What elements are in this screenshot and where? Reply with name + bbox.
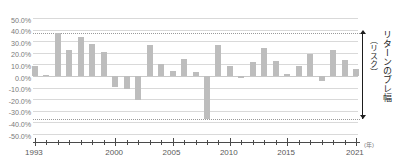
ytick-label-10: 10.0% — [0, 62, 31, 71]
x-axis-tick — [81, 140, 82, 145]
bar — [66, 50, 72, 76]
x-axis-tick — [104, 140, 105, 145]
x-axis-tick — [218, 140, 219, 145]
ytick-label-50: 50.0% — [0, 16, 31, 25]
bar — [181, 59, 187, 76]
x-axis-tick — [184, 140, 185, 145]
bar — [319, 76, 325, 81]
ytick-label-neg50: -50.0% — [0, 132, 31, 141]
bar — [147, 45, 153, 76]
x-axis-tick — [46, 140, 47, 145]
return-volatility-bar-chart: 50.0% 40.0% 30.0% 20.0% 10.0% 0.0% -10.0… — [0, 0, 412, 165]
bar — [124, 76, 130, 89]
x-axis-unit-label: (年) — [364, 140, 374, 149]
xtick-label-2021: 2021 — [346, 148, 364, 157]
range-bracket-line — [362, 33, 363, 119]
x-axis-tick — [161, 140, 162, 145]
bar — [32, 66, 38, 76]
upper-reference-line — [33, 33, 360, 34]
xtick-label-2015: 2015 — [277, 148, 295, 157]
x-axis-tick — [299, 140, 300, 145]
lower-reference-line — [33, 119, 360, 120]
bar — [342, 60, 348, 76]
x-axis-tick — [241, 140, 242, 145]
bar — [227, 66, 233, 76]
gridline-neg10 — [33, 88, 358, 89]
x-axis-tick — [310, 140, 311, 145]
bar — [193, 72, 199, 76]
bar — [284, 74, 290, 76]
range-bracket-arrow-down — [360, 115, 366, 119]
x-axis-tick — [196, 140, 197, 145]
bar — [330, 50, 336, 76]
bar — [261, 48, 267, 76]
xtick-label-2000: 2000 — [105, 148, 123, 157]
gridline-neg20 — [33, 99, 358, 100]
bar — [273, 61, 279, 76]
ytick-label-0: 0.0% — [0, 74, 31, 83]
x-axis-tick — [35, 138, 36, 146]
range-label-main: リターンのブレ幅 — [382, 30, 391, 102]
bar — [55, 33, 61, 76]
gridline-neg50 — [33, 134, 358, 135]
bar — [215, 45, 221, 76]
x-axis-tick — [264, 140, 265, 145]
ytick-label-neg10: -10.0% — [0, 85, 31, 94]
x-axis-tick — [115, 138, 116, 146]
x-axis-tick — [230, 138, 231, 146]
x-axis-tick — [150, 140, 151, 145]
gridline-50 — [33, 18, 358, 19]
bar — [112, 76, 118, 87]
bar — [296, 66, 302, 76]
bar — [353, 69, 359, 76]
x-axis-tick — [92, 140, 93, 145]
bar — [101, 52, 107, 76]
xtick-label-2005: 2005 — [163, 148, 181, 157]
bar — [204, 76, 210, 119]
x-axis-tick — [138, 140, 139, 145]
x-axis-tick — [69, 140, 70, 145]
range-bracket-arrow-up — [360, 30, 366, 34]
bar — [158, 64, 164, 76]
bar — [43, 75, 49, 76]
gridline-neg30 — [33, 111, 358, 112]
ytick-label-neg20: -20.0% — [0, 97, 31, 106]
ytick-label-20: 20.0% — [0, 50, 31, 59]
gridline-zero — [33, 76, 358, 77]
x-axis-tick — [253, 140, 254, 145]
bar — [250, 62, 256, 76]
bar — [89, 44, 95, 76]
ytick-label-30: 30.0% — [0, 39, 31, 48]
x-axis-tick — [173, 138, 174, 146]
bar — [78, 37, 84, 76]
gridline-neg40 — [33, 122, 358, 123]
ytick-label-neg30: -30.0% — [0, 108, 31, 117]
xtick-label-2010: 2010 — [220, 148, 238, 157]
ytick-label-neg40: -40.0% — [0, 120, 31, 129]
bar — [170, 71, 176, 76]
x-axis-tick — [345, 140, 346, 145]
range-label-sub: （リスク） — [368, 36, 376, 76]
x-axis-tick — [207, 140, 208, 145]
x-axis-tick — [127, 140, 128, 145]
x-axis-tick — [333, 140, 334, 145]
x-axis-tick — [322, 140, 323, 145]
x-axis-tick — [276, 140, 277, 145]
bar — [307, 54, 313, 76]
x-axis-tick — [287, 138, 288, 146]
bar — [135, 76, 141, 100]
x-axis-tick — [58, 140, 59, 145]
gridline-40 — [33, 30, 358, 31]
bar — [238, 76, 244, 78]
ytick-label-40: 40.0% — [0, 27, 31, 36]
xtick-label-1993: 1993 — [25, 148, 43, 157]
x-axis-tick — [356, 138, 357, 146]
